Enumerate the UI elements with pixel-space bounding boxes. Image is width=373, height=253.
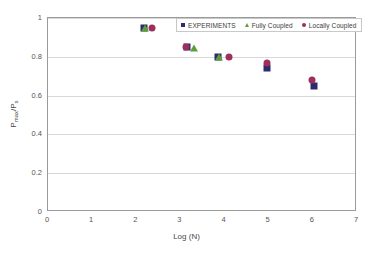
legend-item[interactable]: Fully Coupled bbox=[245, 22, 293, 29]
x-axis-tick-label: 7 bbox=[346, 215, 366, 224]
x-axis-tick-label: 6 bbox=[302, 215, 322, 224]
legend-item[interactable]: EXPERIMENTS bbox=[181, 22, 236, 29]
x-axis-tick-label: 3 bbox=[169, 215, 189, 224]
x-axis-tick-label: 2 bbox=[125, 215, 145, 224]
chart-figure: 00.20.40.60.8101234567 Pmax/Ps Log (N) E… bbox=[0, 0, 373, 253]
legend-label: EXPERIMENTS bbox=[188, 22, 236, 29]
legend-label: Locally Coupled bbox=[309, 22, 357, 29]
x-axis-tick-label: 5 bbox=[258, 215, 278, 224]
legend-marker-icon bbox=[181, 23, 185, 27]
chart-legend: EXPERIMENTSFully CoupledLocally Coupled bbox=[176, 18, 362, 32]
legend-marker-icon bbox=[302, 23, 306, 27]
y-axis-tick-label: 1 bbox=[12, 13, 42, 22]
x-axis-tick-label: 4 bbox=[214, 215, 234, 224]
legend-item[interactable]: Locally Coupled bbox=[302, 22, 357, 29]
y-axis-tick-label: 0.8 bbox=[12, 51, 42, 60]
y-axis-tick-label: 0.4 bbox=[12, 129, 42, 138]
y-axis-tick-label: 0.2 bbox=[12, 168, 42, 177]
y-axis-tick-label: 0.6 bbox=[12, 90, 42, 99]
legend-label: Fully Coupled bbox=[252, 22, 293, 29]
x-axis-title: Log (N) bbox=[0, 232, 373, 241]
x-axis-tick-label: 1 bbox=[81, 215, 101, 224]
x-axis-tick-label: 0 bbox=[37, 215, 57, 224]
legend-marker-icon bbox=[245, 23, 249, 27]
y-axis-title: Pmax/Ps bbox=[9, 100, 20, 127]
axes-overlay: 00.20.40.60.8101234567 bbox=[0, 0, 373, 253]
